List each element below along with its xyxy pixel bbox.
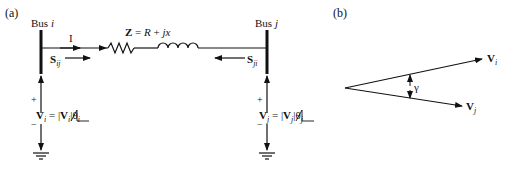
inductor-icon xyxy=(158,43,198,48)
power-line-diagram: (a) Bus i Bus j I Z = R + jx Sij Sji + −… xyxy=(0,0,515,175)
panel-a-label: (a) xyxy=(5,6,18,20)
s-ji-label: Sji xyxy=(247,53,258,68)
v-j-equation: Vj = |Vj|θj xyxy=(259,109,304,124)
impedance-label: Z = R + jx xyxy=(125,26,171,38)
bus-j-plus: + xyxy=(257,94,263,105)
bus-j-label: Bus j xyxy=(255,17,278,29)
s-ij-label: Sij xyxy=(50,53,61,68)
current-label: I xyxy=(69,32,73,44)
v-i-phasor-label: Vi xyxy=(487,52,497,67)
bus-i-plus: + xyxy=(31,94,37,105)
resistor-icon xyxy=(108,43,134,53)
panel-b-label: (b) xyxy=(333,6,347,20)
v-j-phasor-label: Vj xyxy=(466,100,477,115)
gamma-label: γ xyxy=(413,81,419,93)
bus-i-label: Bus i xyxy=(31,17,54,29)
ground-icon xyxy=(33,153,49,159)
v-j-phasor-icon xyxy=(345,88,462,106)
ground-icon xyxy=(259,153,275,159)
